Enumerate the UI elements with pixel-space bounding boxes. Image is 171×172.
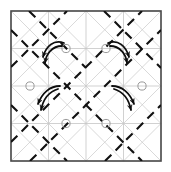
crease-pattern-figure: Origami crease pattern with twist-fold r… <box>0 0 171 172</box>
crease-pattern-canvas <box>0 0 171 172</box>
